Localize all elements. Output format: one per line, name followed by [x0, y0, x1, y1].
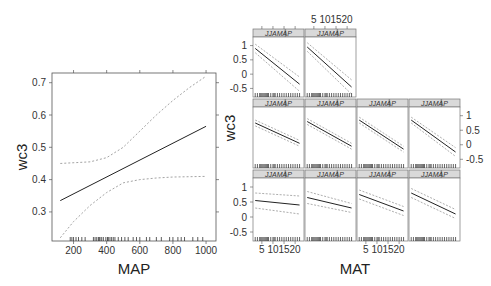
strip-label: JJAMAP: [264, 171, 292, 178]
x-tick-label: 200: [65, 245, 82, 256]
mat-trellis-plot: JJAMAPJJAMAPJJAMAPJJAMAPJJAMAPJJAMAPJJAM…: [221, 14, 484, 277]
trellis-panel: JJAMAP: [357, 170, 408, 241]
strip-label: JJAMAP: [264, 30, 292, 37]
y-tick-label: 1: [241, 182, 247, 193]
x-tick-label: 20: [290, 244, 302, 255]
strip-label: JJAMAP: [368, 100, 396, 107]
y-tick-label: -0.5: [466, 154, 484, 165]
x-tick-label: 5: [311, 14, 317, 25]
panel-frame: [253, 178, 304, 241]
x-tick-label: 10: [319, 14, 331, 25]
x-axis-label: MAT: [340, 260, 371, 277]
confidence-band: [60, 176, 206, 237]
trellis-panel: JJAMAP: [305, 29, 356, 97]
x-tick-label: 600: [131, 245, 148, 256]
y-axis-label: wc3: [221, 115, 238, 143]
y-tick-label: 1: [466, 110, 472, 121]
trellis-panel: JJAMAP: [305, 99, 356, 168]
trellis-panel: JJAMAP: [253, 99, 304, 168]
trellis-panel: JJAMAP: [305, 170, 356, 241]
x-tick-label: 5: [363, 244, 369, 255]
y-tick-label: 0.5: [233, 197, 247, 208]
y-tick-label: 0: [241, 69, 247, 80]
strip-label: JJAMAP: [420, 100, 448, 107]
x-tick-label: 15: [278, 244, 290, 255]
strip-label: JJAMAP: [264, 100, 292, 107]
x-tick-label: 400: [98, 245, 115, 256]
y-tick-label: -0.5: [230, 227, 248, 238]
panel-frame: [409, 107, 460, 168]
strip-label: JJAMAP: [316, 171, 344, 178]
strip-label: JJAMAP: [316, 30, 344, 37]
y-tick-label: 0.6: [32, 110, 46, 121]
x-tick-label: 1000: [195, 245, 218, 256]
y-tick-label: 0: [241, 212, 247, 223]
y-tick-label: 0.7: [32, 77, 46, 88]
y-tick-label: 1: [241, 40, 247, 51]
y-tick-label: 0.3: [32, 206, 46, 217]
strip-label: JJAMAP: [316, 100, 344, 107]
panel-frame: [357, 107, 408, 168]
trellis-panel: JJAMAP: [409, 99, 460, 168]
x-tick-label: 20: [394, 244, 406, 255]
panel-frame: [409, 178, 460, 241]
strip-label: JJAMAP: [368, 171, 396, 178]
x-tick-label: 800: [165, 245, 182, 256]
chart-canvas: 20040060080010000.30.40.50.60.7MAPwc3JJA…: [0, 0, 491, 286]
x-tick-label: 10: [371, 244, 383, 255]
x-tick-label: 15: [382, 244, 394, 255]
y-tick-label: -0.5: [230, 83, 248, 94]
y-tick-label: 0: [466, 139, 472, 150]
trellis-panel: JJAMAP: [409, 170, 460, 241]
strip-label: JJAMAP: [420, 171, 448, 178]
trellis-panel: JJAMAP: [253, 170, 304, 241]
y-tick-label: 0.5: [32, 142, 46, 153]
y-tick-label: 0.5: [466, 125, 480, 136]
x-tick-label: 10: [267, 244, 279, 255]
x-tick-label: 20: [342, 14, 354, 25]
y-tick-label: 0.4: [32, 174, 46, 185]
panel-frame: [305, 107, 356, 168]
x-tick-label: 5: [259, 244, 265, 255]
confidence-band: [60, 76, 206, 163]
panel-frame: [305, 178, 356, 241]
plot-frame: [52, 73, 216, 241]
panel-frame: [305, 37, 356, 97]
map-effect-plot: 20040060080010000.30.40.50.60.7MAPwc3: [13, 70, 219, 277]
y-axis-label: wc3: [13, 144, 30, 172]
trellis-panel: JJAMAP: [357, 99, 408, 168]
trellis-panel: JJAMAP: [253, 29, 304, 97]
x-tick-label: 15: [330, 14, 342, 25]
x-axis-label: MAP: [118, 260, 151, 277]
y-tick-label: 0.5: [233, 54, 247, 65]
panel-frame: [253, 107, 304, 168]
